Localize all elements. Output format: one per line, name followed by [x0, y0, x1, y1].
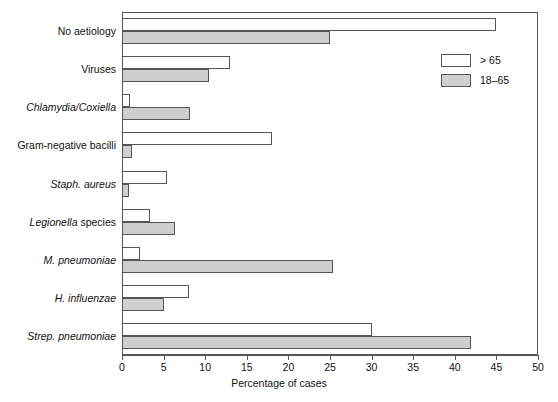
bar-h-influenzae-18-65	[122, 298, 164, 311]
bar-staph-aureus-18-65	[122, 184, 129, 197]
bar-no-aetiology-over-65	[122, 18, 496, 31]
bar-gram-negative-bacilli-18-65	[122, 145, 132, 158]
bar-staph-aureus-over-65	[122, 171, 167, 184]
x-tick-label-30: 30	[357, 361, 387, 373]
category-label-m-pneumoniae: M. pneumoniae	[0, 254, 116, 266]
x-tick-25	[330, 355, 331, 360]
legend: > 65 18–65	[441, 50, 509, 90]
legend-label-over-65: > 65	[480, 54, 501, 66]
bar-chart: No aetiologyVirusesChlamydia/CoxiellaGra…	[0, 0, 558, 402]
bar-h-influenzae-over-65	[122, 285, 189, 298]
bar-no-aetiology-18-65	[122, 31, 330, 44]
bar-legionella-species-18-65	[122, 222, 175, 235]
legend-swatch-over-65	[441, 54, 471, 67]
bar-strep-pneumoniae-18-65	[122, 336, 471, 349]
x-tick-50	[538, 355, 539, 360]
x-tick-5	[164, 355, 165, 360]
category-label-viruses: Viruses	[0, 63, 116, 75]
bar-viruses-18-65	[122, 69, 209, 82]
x-tick-label-5: 5	[149, 361, 179, 373]
legend-label-18-65: 18–65	[480, 74, 509, 86]
x-tick-label-40: 40	[440, 361, 470, 373]
category-label-no-aetiology: No aetiology	[0, 25, 116, 37]
category-label-chlamydia-coxiella: Chlamydia/Coxiella	[0, 101, 116, 113]
category-label-legionella-species: Legionella species	[0, 216, 116, 228]
x-tick-label-0: 0	[107, 361, 137, 373]
category-label-staph-aureus: Staph. aureus	[0, 178, 116, 190]
bar-chlamydia-coxiella-over-65	[122, 94, 130, 107]
x-tick-label-25: 25	[315, 361, 345, 373]
bar-legionella-species-over-65	[122, 209, 150, 222]
x-tick-label-20: 20	[273, 361, 303, 373]
x-tick-0	[122, 355, 123, 360]
x-tick-40	[455, 355, 456, 360]
x-tick-15	[247, 355, 248, 360]
bar-gram-negative-bacilli-over-65	[122, 132, 272, 145]
x-tick-45	[496, 355, 497, 360]
legend-item-18-65: 18–65	[441, 70, 509, 90]
x-axis-title: Percentage of cases	[0, 377, 558, 389]
x-tick-10	[205, 355, 206, 360]
x-tick-label-10: 10	[190, 361, 220, 373]
bar-m-pneumoniae-18-65	[122, 260, 333, 273]
x-tick-label-15: 15	[232, 361, 262, 373]
category-label-h-influenzae: H. influenzae	[0, 292, 116, 304]
x-tick-label-50: 50	[523, 361, 553, 373]
x-tick-label-45: 45	[481, 361, 511, 373]
x-tick-35	[413, 355, 414, 360]
bar-strep-pneumoniae-over-65	[122, 323, 372, 336]
x-tick-30	[372, 355, 373, 360]
bar-m-pneumoniae-over-65	[122, 247, 140, 260]
x-tick-20	[288, 355, 289, 360]
legend-swatch-18-65	[441, 74, 471, 87]
bar-chlamydia-coxiella-18-65	[122, 107, 190, 120]
category-label-gram-negative-bacilli: Gram-negative bacilli	[0, 139, 116, 151]
legend-item-over-65: > 65	[441, 50, 509, 70]
bar-viruses-over-65	[122, 56, 230, 69]
x-tick-label-35: 35	[398, 361, 428, 373]
category-label-strep-pneumoniae: Strep. pneumoniae	[0, 330, 116, 342]
